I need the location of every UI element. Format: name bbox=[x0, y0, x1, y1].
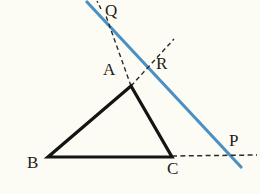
geometry-figure: Q A R B C P bbox=[0, 0, 260, 194]
dashed-ray-CP bbox=[172, 155, 257, 156]
geometry-canvas bbox=[0, 0, 260, 194]
vertex-label-a: A bbox=[103, 61, 115, 78]
dashed-stub-above-Q bbox=[97, 1, 101, 9]
vertex-label-b: B bbox=[27, 154, 38, 171]
vertex-label-c: C bbox=[167, 160, 178, 177]
vertex-label-q: Q bbox=[105, 2, 117, 19]
vertex-label-r: R bbox=[156, 55, 167, 72]
triangle-abc bbox=[48, 86, 172, 157]
vertex-label-p: P bbox=[229, 132, 238, 149]
dashed-ray-AR bbox=[131, 39, 174, 86]
